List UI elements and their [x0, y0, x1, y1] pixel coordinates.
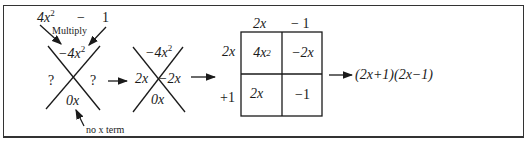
x2-left-factor: 2x — [135, 72, 148, 86]
box-col-header-1: 2x — [253, 17, 266, 31]
box-row-header-1: 2x — [222, 45, 235, 59]
x2-right-factor: −2x — [158, 72, 181, 86]
no-x-term-arrow — [76, 110, 84, 126]
expression-operator: − — [77, 11, 85, 25]
no-x-term-note: no x term — [86, 125, 124, 135]
box-cell-r1c2: −2x — [283, 33, 322, 73]
box-row-header-2: +1 — [220, 91, 235, 105]
x2-bottom-sum: 0x — [151, 93, 164, 107]
x1-bottom-sum: 0x — [66, 94, 79, 108]
box-cell-r2c2: −1 — [283, 75, 322, 115]
x1-left-unknown: ? — [48, 74, 54, 88]
x1-top-product: −4x2 — [58, 47, 85, 61]
expression-right-term: 1 — [102, 11, 109, 25]
box-cell-r2c1: 2x — [242, 75, 282, 113]
box-col-header-2: − 1 — [291, 17, 309, 31]
expression-left-term: 4x2 — [37, 11, 55, 25]
factored-result: (2x+1)(2x−1) — [355, 68, 433, 82]
x1-right-unknown: ? — [90, 74, 96, 88]
multiply-label: Multiply — [52, 26, 87, 36]
box-cell-r1c1: 4x2 — [242, 33, 282, 73]
x2-top-product: −4x2 — [145, 46, 172, 60]
